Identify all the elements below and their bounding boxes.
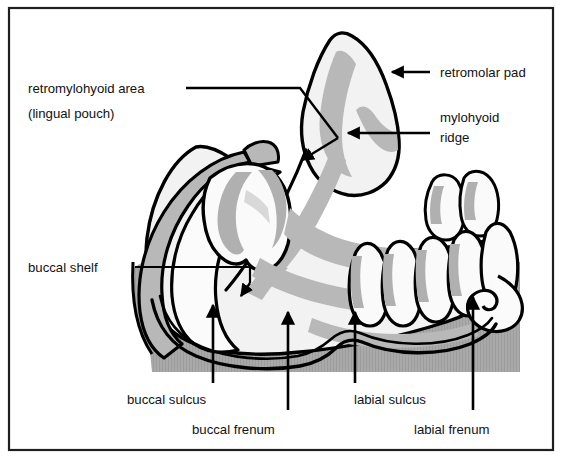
label-retromolar-pad: retromolar pad: [440, 65, 526, 80]
label-retromylohyoid-area-line2: (lingual pouch): [28, 106, 115, 121]
label-labial-sulcus: labial sulcus: [354, 392, 426, 407]
label-mylohyoid-ridge-line1: mylohyoid: [440, 110, 499, 125]
molar-tooth-left: [203, 164, 291, 271]
label-mylohyoid-ridge-line2: ridge: [440, 130, 469, 145]
label-buccal-sulcus: buccal sulcus: [127, 392, 207, 407]
label-buccal-frenum: buccal frenum: [192, 422, 275, 437]
label-retromylohyoid-area-line1: retromylohyoid area: [28, 81, 145, 96]
label-buccal-shelf: buccal shelf: [28, 260, 98, 275]
anatomy-figure: retromylohyoid area (lingual pouch) retr…: [0, 0, 564, 458]
label-labial-frenum: labial frenum: [414, 422, 490, 437]
